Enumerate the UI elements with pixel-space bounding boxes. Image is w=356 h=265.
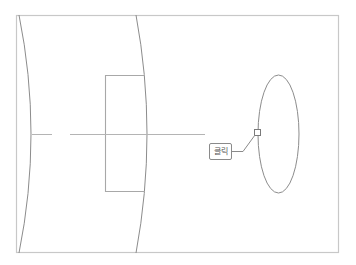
inner-rectangle <box>106 76 146 192</box>
click-callout-label[interactable]: 클릭 <box>209 143 232 160</box>
callout-text: 클릭 <box>214 148 228 156</box>
left-curve <box>19 15 31 253</box>
leader-line <box>232 135 255 152</box>
diagram-canvas <box>0 0 356 265</box>
anchor-square-icon[interactable] <box>255 130 261 136</box>
ellipse <box>258 75 299 193</box>
